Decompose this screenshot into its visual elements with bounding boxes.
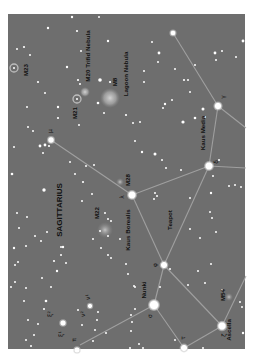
star-icon — [37, 323, 39, 325]
label-teapot: Teapot — [166, 210, 173, 230]
star-icon — [65, 262, 67, 264]
label-m54: M54 — [219, 288, 226, 301]
star-icon — [174, 68, 176, 70]
star-icon — [50, 286, 52, 288]
star-icon — [138, 343, 140, 345]
star-icon — [56, 270, 58, 272]
star-icon — [215, 59, 217, 61]
star-icon — [242, 40, 245, 43]
star-icon — [34, 235, 36, 237]
star-icon — [107, 40, 109, 42]
star-icon — [194, 64, 196, 66]
sagittarius-star-chart: M23M21M20 Trifid NebulaM8Lagoon NebulaM2… — [0, 0, 253, 358]
star-icon — [156, 195, 158, 197]
label-sagittarius: SAGITTARIUS — [55, 183, 64, 237]
star-icon — [76, 30, 78, 32]
m54-globular-icon — [225, 293, 233, 301]
star-icon — [142, 347, 144, 349]
star-icon — [39, 145, 42, 148]
star-icon — [103, 112, 105, 114]
star-icon — [183, 79, 185, 81]
star-icon — [189, 91, 191, 93]
eta-top-star-icon — [170, 30, 176, 36]
star-icon — [234, 184, 236, 186]
kaus-borealis-star-icon — [128, 191, 136, 199]
star-icon — [143, 81, 145, 83]
mu-star-icon — [48, 137, 54, 143]
star-icon — [131, 321, 133, 323]
greek-letter-label: ξ¹ — [57, 331, 65, 337]
star-icon — [25, 339, 27, 341]
star-icon — [119, 238, 121, 240]
omicron-star-icon — [74, 347, 80, 353]
greek-letter-label: ν² — [79, 311, 86, 317]
star-icon — [202, 108, 205, 111]
star-icon — [125, 114, 127, 116]
star-icon — [161, 159, 163, 161]
star-icon — [209, 211, 211, 213]
star-icon — [48, 145, 50, 147]
star-icon — [25, 287, 27, 289]
star-icon — [104, 212, 106, 214]
star-icon — [57, 117, 59, 119]
star-icon — [27, 126, 29, 128]
star-icon — [99, 230, 101, 232]
star-icon — [45, 300, 48, 303]
star-icon — [141, 151, 143, 153]
star-icon — [194, 117, 197, 120]
star-icon — [29, 54, 31, 56]
phi-star-icon — [160, 261, 167, 268]
greek-letter-label: λ — [118, 195, 125, 199]
label-m23: M23 — [22, 63, 29, 76]
star-icon — [169, 268, 171, 270]
star-icon — [91, 193, 93, 195]
star-icon — [17, 261, 19, 263]
m8-nebula-icon — [100, 88, 120, 108]
star-icon — [37, 81, 39, 83]
m23-core — [13, 67, 15, 69]
star-icon — [40, 240, 42, 242]
star-icon — [13, 146, 15, 148]
star-icon — [71, 16, 73, 18]
star-icon — [14, 264, 16, 266]
label-m8: M8 — [111, 77, 118, 86]
star-icon — [105, 332, 107, 334]
greek-letter-label: ζ — [220, 333, 228, 336]
star-icon — [100, 247, 102, 249]
star-icon — [164, 103, 166, 105]
star-icon — [80, 50, 82, 52]
star-icon — [10, 286, 12, 288]
star-icon — [16, 212, 18, 214]
star-icon — [60, 254, 62, 256]
star-icon — [53, 260, 55, 262]
label-m22: M22 — [93, 206, 100, 219]
star-icon — [11, 173, 14, 176]
star-icon — [202, 347, 204, 349]
greek-letter-label: φ — [151, 263, 159, 267]
star-icon — [27, 319, 29, 321]
star-icon — [132, 122, 134, 124]
star-icon — [110, 257, 112, 259]
star-icon — [33, 334, 35, 336]
star-icon — [26, 106, 28, 108]
label-nunki: Nunki — [140, 281, 147, 298]
star-icon — [162, 107, 164, 109]
star-icon — [25, 245, 27, 247]
label-lagoon-nebula: Lagoon Nebula — [122, 51, 129, 96]
star-icon — [47, 27, 49, 29]
star-icon — [110, 220, 112, 222]
star-icon — [69, 161, 71, 163]
star-icon — [16, 48, 18, 50]
star-icon — [107, 235, 109, 237]
star-icon — [97, 102, 100, 105]
star-icon — [240, 186, 242, 188]
star-icon — [228, 185, 230, 187]
star-icon — [81, 324, 83, 326]
star-icon — [215, 231, 217, 233]
star-icon — [23, 300, 25, 302]
star-icon — [199, 237, 201, 239]
m22-globular-icon — [97, 222, 113, 238]
star-icon — [74, 173, 76, 175]
xi2-star-icon — [60, 320, 66, 326]
star-icon — [81, 200, 83, 202]
